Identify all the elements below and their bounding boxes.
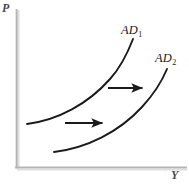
- axis-shadow: [18, 11, 186, 169]
- x-axis-label: Y: [171, 169, 178, 181]
- curve-label-ad2-text: AD: [155, 51, 172, 65]
- curve-label-ad1-text: AD: [121, 23, 138, 37]
- curve-label-ad1: AD1: [121, 24, 142, 37]
- diagram-canvas: [0, 0, 189, 185]
- y-axis-label: P: [2, 2, 9, 14]
- curve-label-ad2-subscript: 2: [172, 58, 176, 67]
- curve-ad1: [27, 39, 133, 124]
- aggregate-demand-figure: P Y AD1 AD2: [0, 0, 189, 185]
- curve-label-ad2: AD2: [155, 52, 176, 65]
- curve-label-ad1-subscript: 1: [138, 30, 142, 39]
